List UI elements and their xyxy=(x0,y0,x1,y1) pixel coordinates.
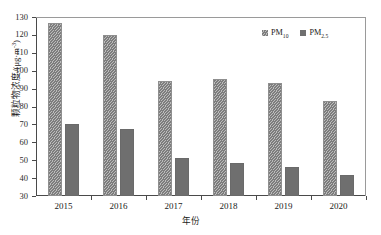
x-tick-mark xyxy=(91,196,92,200)
legend-label-pm10-sub: 10 xyxy=(283,33,289,39)
y-tick-mark xyxy=(32,107,36,108)
y-tick-mark xyxy=(32,160,36,161)
bar-pm25-2019[interactable] xyxy=(285,167,299,196)
y-tick-mark xyxy=(32,53,36,54)
bar-pm10-2020[interactable] xyxy=(323,101,337,196)
legend-item-pm10[interactable]: PM10 xyxy=(262,28,288,39)
bar-pm25-2016[interactable] xyxy=(120,129,134,196)
y-tick-mark xyxy=(32,124,36,125)
x-axis-title: 年份 xyxy=(0,214,381,226)
x-tick-label: 2017 xyxy=(147,201,201,211)
x-tick-label: 2015 xyxy=(37,201,91,211)
x-tick-mark xyxy=(146,196,147,200)
y-tick-label: 70 xyxy=(2,120,28,129)
bar-pm10-2015[interactable] xyxy=(48,23,62,196)
legend-swatch-pm10-icon xyxy=(262,30,268,36)
y-tick-mark xyxy=(32,178,36,179)
y-tick-label: 120 xyxy=(2,30,28,39)
legend-label-pm25: PM2.5 xyxy=(309,28,328,39)
bar-pm10-2019[interactable] xyxy=(268,83,282,196)
legend-label-pm25-sub: 2.5 xyxy=(321,33,328,39)
y-tick-label: 30 xyxy=(2,192,28,201)
particulate-matter-bar-chart: 颗粒物浓度/(μg·m-3) 3040506070809010011012013… xyxy=(0,0,381,235)
x-tick-mark xyxy=(256,196,257,200)
y-tick-label: 110 xyxy=(2,48,28,57)
bar-pm25-2017[interactable] xyxy=(175,158,189,196)
y-tick-mark xyxy=(32,196,36,197)
y-tick-mark xyxy=(32,17,36,18)
y-axis-title-tail: ) xyxy=(11,40,21,43)
legend-swatch-pm25-icon xyxy=(300,30,306,36)
y-tick-label: 80 xyxy=(2,102,28,111)
plot-area xyxy=(36,17,366,196)
y-tick-label: 60 xyxy=(2,138,28,147)
legend: PM10 PM2.5 xyxy=(262,28,328,39)
x-tick-mark xyxy=(201,196,202,200)
y-tick-label: 130 xyxy=(2,13,28,22)
y-tick-label: 90 xyxy=(2,84,28,93)
plot-frame-top xyxy=(36,17,366,18)
y-tick-mark xyxy=(32,142,36,143)
y-tick-label: 100 xyxy=(2,66,28,75)
x-tick-label: 2019 xyxy=(257,201,311,211)
legend-label-pm25-base: PM xyxy=(309,28,321,37)
bar-pm10-2016[interactable] xyxy=(103,35,117,196)
bar-pm25-2015[interactable] xyxy=(65,124,79,196)
bar-pm10-2018[interactable] xyxy=(213,79,227,196)
y-tick-mark xyxy=(32,35,36,36)
legend-label-pm10: PM10 xyxy=(271,28,288,39)
y-tick-label: 50 xyxy=(2,156,28,165)
y-tick-mark xyxy=(32,89,36,90)
y-tick-mark xyxy=(32,71,36,72)
y-tick-label: 40 xyxy=(2,174,28,183)
bar-pm10-2017[interactable] xyxy=(158,81,172,196)
x-tick-label: 2016 xyxy=(92,201,146,211)
legend-label-pm10-base: PM xyxy=(271,28,283,37)
x-tick-label: 2018 xyxy=(202,201,256,211)
bar-pm25-2020[interactable] xyxy=(340,175,354,196)
x-tick-label: 2020 xyxy=(312,201,366,211)
plot-frame-right xyxy=(365,17,366,196)
legend-item-pm25[interactable]: PM2.5 xyxy=(300,28,328,39)
x-tick-mark xyxy=(311,196,312,200)
x-tick-mark xyxy=(366,196,367,200)
bar-pm25-2018[interactable] xyxy=(230,163,244,196)
